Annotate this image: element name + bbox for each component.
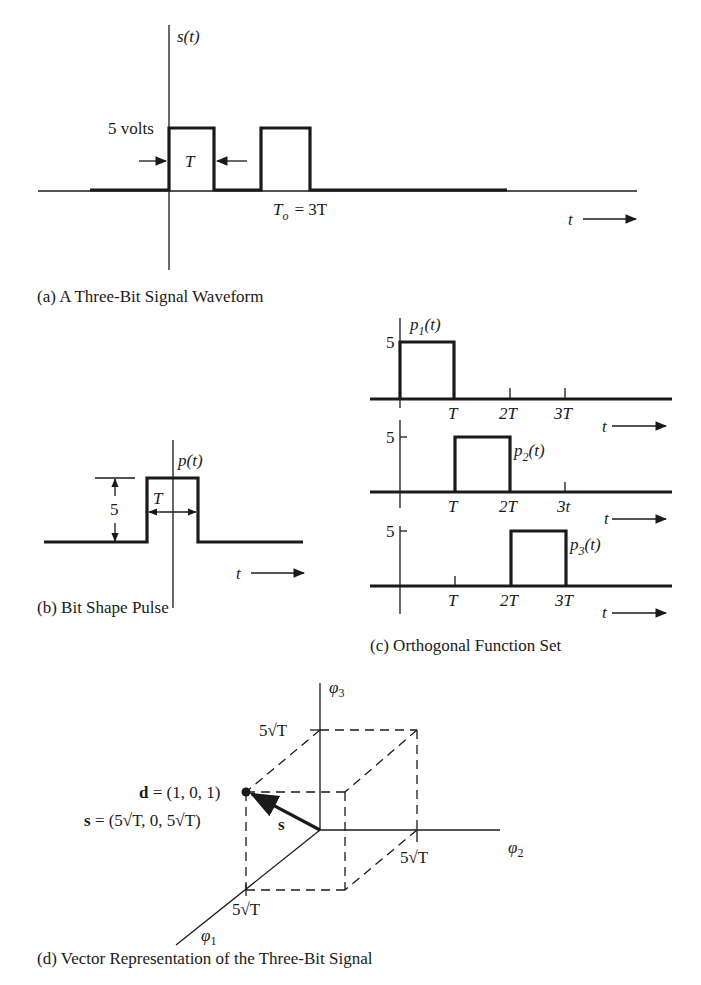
- panel-d-signal-vector-arrow: [252, 794, 320, 830]
- figure-canvas: s(t) 5 volts T To= 3T t (a) A Three-Bit …: [0, 0, 701, 985]
- panel-b-bit-shape-pulse: p(t) 5 T t (b) Bit Shape Pulse: [37, 440, 304, 617]
- panel-c-p3-plot: 5 p3(t) T 2T 3T t: [370, 522, 672, 622]
- panel-c-p3-tick-label-2t: 2T: [500, 591, 520, 610]
- panel-d-phi2-label: φ2: [508, 838, 523, 860]
- panel-c-orthogonal-function-set: 5 p1(t) T 2T 3T t 5 p2(t) T 2T 3t t: [370, 315, 672, 655]
- panel-b-y-label: p(t): [177, 451, 203, 470]
- panel-d-vector-representation: φ3 φ2 φ1 5√T 5√T 5√T d = (1, 0, 1) s = (…: [37, 678, 523, 968]
- panel-a-width-label: T: [185, 152, 196, 171]
- panel-c-p1-x-label: t: [602, 417, 608, 436]
- panel-a-period-label: To= 3T: [273, 200, 328, 223]
- panel-c-p1-label: p1(t): [409, 315, 441, 338]
- panel-d-phi3-label: φ3: [329, 678, 344, 700]
- panel-c-p3-pulse: [511, 531, 566, 586]
- panel-c-p3-x-label: t: [602, 603, 608, 622]
- panel-c-p2-pulse: [455, 437, 510, 492]
- panel-d-phi1-label: φ1: [201, 926, 216, 948]
- panel-c-p1-tick-label-3t: 3T: [553, 404, 574, 423]
- panel-d-s-label: s = (5√T, 0, 5√T): [84, 811, 201, 830]
- panel-c-p2-tick-label-2t: 2T: [499, 497, 519, 516]
- panel-b-caption: (b) Bit Shape Pulse: [37, 598, 169, 617]
- panel-c-p2-amplitude: 5: [386, 428, 395, 447]
- panel-d-caption: (d) Vector Representation of the Three-B…: [37, 949, 373, 968]
- panel-a-y-label: s(t): [177, 27, 200, 46]
- panel-d-point-d: [242, 788, 251, 797]
- panel-c-p3-tick-label-3t: 3T: [554, 591, 575, 610]
- panel-c-p1-amplitude: 5: [386, 333, 395, 352]
- panel-c-p2-tick-label-t: T: [448, 497, 459, 516]
- panel-a-x-label: t: [568, 210, 574, 229]
- panel-d-phi2-tick-label: 5√T: [400, 848, 429, 867]
- panel-c-p2-x-label: t: [604, 509, 610, 528]
- panel-c-p2-label: p2(t): [513, 441, 545, 464]
- panel-a-caption: (a) A Three-Bit Signal Waveform: [37, 287, 264, 306]
- panel-d-phi1-tick-label: 5√T: [232, 900, 261, 919]
- panel-d-phi1-axis: [176, 830, 320, 945]
- panel-d-phi3-tick-label: 5√T: [259, 721, 288, 740]
- panel-c-p1-tick-label-2t: 2T: [499, 404, 519, 423]
- panel-c-p1-pulse: [400, 342, 454, 399]
- panel-c-p3-amplitude: 5: [386, 522, 395, 541]
- panel-d-dashed-cube: [246, 730, 417, 890]
- panel-c-p2-tick-label-3t: 3t: [556, 497, 572, 516]
- panel-c-p2-plot: 5 p2(t) T 2T 3t t: [370, 420, 672, 528]
- panel-d-vector-label: s: [278, 815, 285, 834]
- panel-b-width-label: T: [153, 489, 164, 508]
- panel-d-d-label: d = (1, 0, 1): [139, 783, 220, 802]
- panel-c-p3-tick-label-t: T: [448, 591, 459, 610]
- panel-c-p3-label: p3(t): [569, 535, 601, 558]
- panel-c-p1-plot: 5 p1(t) T 2T 3T t: [370, 315, 672, 436]
- panel-b-x-label: t: [236, 564, 242, 583]
- panel-b-amplitude-label: 5: [110, 500, 119, 519]
- panel-a-three-bit-waveform: s(t) 5 volts T To= 3T t (a) A Three-Bit …: [37, 25, 637, 306]
- panel-a-amplitude-label: 5 volts: [108, 119, 154, 138]
- panel-c-caption: (c) Orthogonal Function Set: [370, 636, 561, 655]
- panel-c-p1-tick-label-t: T: [448, 404, 459, 423]
